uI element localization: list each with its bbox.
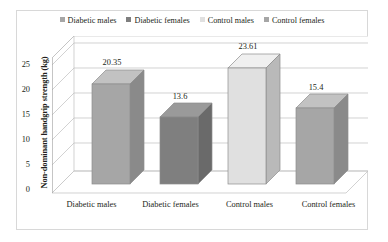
bar-diabetic-females[interactable] xyxy=(160,103,212,184)
y-tick-label: 0 xyxy=(10,185,30,194)
left-wall xyxy=(52,36,74,193)
bar-value-label: 15.4 xyxy=(294,83,338,92)
y-axis-tick-labels: 25 20 15 10 5 0 xyxy=(6,36,30,196)
bar-side-face xyxy=(198,103,212,184)
legend-label: Diabetic females xyxy=(134,16,189,25)
y-tick-label: 25 xyxy=(10,60,30,69)
chart-legend: Diabetic males Diabetic females Control … xyxy=(16,10,368,30)
bar-front-face xyxy=(296,108,334,184)
bar-diabetic-males[interactable] xyxy=(92,70,144,184)
legend-swatch-icon xyxy=(264,17,269,22)
y-tick-label: 15 xyxy=(10,110,30,119)
legend-swatch-icon xyxy=(126,17,131,22)
legend-label: Diabetic males xyxy=(68,16,117,25)
bar-front-face xyxy=(92,84,130,184)
bar-front-face xyxy=(228,68,266,184)
bar-side-face xyxy=(334,94,348,184)
y-tick-label: 10 xyxy=(10,135,30,144)
legend-item-diabetic-males[interactable]: Diabetic males xyxy=(60,16,117,25)
bar-value-label: 20.35 xyxy=(90,58,134,67)
y-tick-label: 20 xyxy=(10,85,30,94)
x-label-diabetic-males: Diabetic males xyxy=(52,198,131,232)
plot-area: 20.35 13.6 23.61 15.4 xyxy=(52,36,368,196)
legend-item-control-males[interactable]: Control males xyxy=(200,16,254,25)
legend-item-diabetic-females[interactable]: Diabetic females xyxy=(126,16,189,25)
x-label-control-females: Control females xyxy=(289,198,368,232)
legend-swatch-icon xyxy=(60,17,65,22)
bar-side-face xyxy=(266,54,280,184)
y-tick-label: 5 xyxy=(10,160,30,169)
bar-front-face xyxy=(160,117,198,184)
bar-side-face xyxy=(130,70,144,184)
legend-label: Control females xyxy=(272,16,325,25)
chart-figure: Diabetic males Diabetic females Control … xyxy=(0,0,388,242)
bar-control-males[interactable] xyxy=(228,54,280,184)
legend-label: Control males xyxy=(208,16,254,25)
legend-swatch-icon xyxy=(200,17,205,22)
y-axis-title: Non-dominant handgrip strength (kg) xyxy=(40,43,49,203)
bar-value-label: 13.6 xyxy=(158,92,202,101)
x-label-control-males: Control males xyxy=(210,198,289,232)
bar-value-label: 23.61 xyxy=(226,42,270,51)
bar-control-females[interactable] xyxy=(296,94,348,184)
legend-item-control-females[interactable]: Control females xyxy=(264,16,325,25)
x-axis-category-labels: Diabetic males Diabetic females Control … xyxy=(52,198,368,232)
x-label-diabetic-females: Diabetic females xyxy=(131,198,210,232)
